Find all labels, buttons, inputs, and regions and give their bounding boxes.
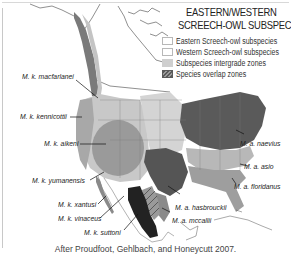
intergrade-swatch-icon	[162, 59, 173, 67]
legend-label: Western Screech-owl subspecies	[176, 47, 279, 57]
overlap-swatch-icon	[162, 70, 173, 78]
eastern-swatch-icon	[162, 37, 173, 45]
legend-label: Eastern Screech-owl subspecies	[176, 36, 277, 46]
legend-label: Subspecies intergrade zones	[176, 58, 266, 68]
legend-items: Eastern Screech-owl subspecies Western S…	[178, 35, 290, 79]
label-macfarlanei: M. k. macfarlanei	[22, 72, 74, 81]
label-hasbrouckii: M. a. hasbrouckii	[175, 203, 226, 212]
legend-title-line1: EASTERN/WESTERN	[178, 6, 285, 19]
legend-item-western: Western Screech-owl subspecies	[162, 46, 290, 57]
legend-label: Species overlap zones	[176, 69, 246, 79]
label-xantusi: M. k. xantusi	[58, 200, 96, 209]
label-suttoni: M. k. suttoni	[84, 228, 121, 237]
label-naevius: M. a. naevius	[240, 139, 280, 148]
label-yumanensis: M. k. yumanensis	[32, 176, 85, 185]
label-vinaceus: M. k. vinaceus	[58, 214, 101, 223]
legend-item-intergrade: Subspecies intergrade zones	[162, 57, 290, 68]
baja-xantusi	[96, 176, 114, 214]
legend-title-line2: SCREECH-OWL SUBSPECIES	[178, 19, 285, 32]
caribbean-outline	[180, 210, 272, 240]
aikeni-range	[92, 120, 144, 176]
legend-item-eastern: Eastern Screech-owl subspecies	[162, 35, 290, 46]
legend-item-overlap: Species overlap zones	[162, 68, 290, 79]
source-caption: After Proudfoot, Gehlbach, and Honeycutt…	[0, 244, 291, 254]
label-floridanus: M. a. floridanus	[234, 182, 280, 191]
label-asio: M. a. asio	[244, 162, 273, 171]
western-swatch-icon	[162, 48, 173, 56]
label-aikeni: M. k. aikeni	[44, 139, 78, 148]
label-kennicottii: M. k. kennicottii	[20, 112, 67, 121]
map-legend: EASTERN/WESTERN SCREECH-OWL SUBSPECIES E…	[178, 6, 290, 79]
label-mccallii: M. a. mccallii	[172, 216, 211, 225]
